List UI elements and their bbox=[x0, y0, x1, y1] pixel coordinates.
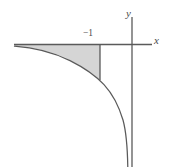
hyperbola-figure: y x −1 bbox=[0, 0, 172, 167]
hyperbola-curve bbox=[15, 46, 128, 167]
y-axis-label: y bbox=[126, 8, 131, 19]
figure-canvas bbox=[0, 0, 172, 167]
tick-label-negative-one: −1 bbox=[83, 29, 93, 39]
shaded-area-under-curve bbox=[15, 45, 101, 80]
x-axis-label: x bbox=[154, 35, 159, 46]
